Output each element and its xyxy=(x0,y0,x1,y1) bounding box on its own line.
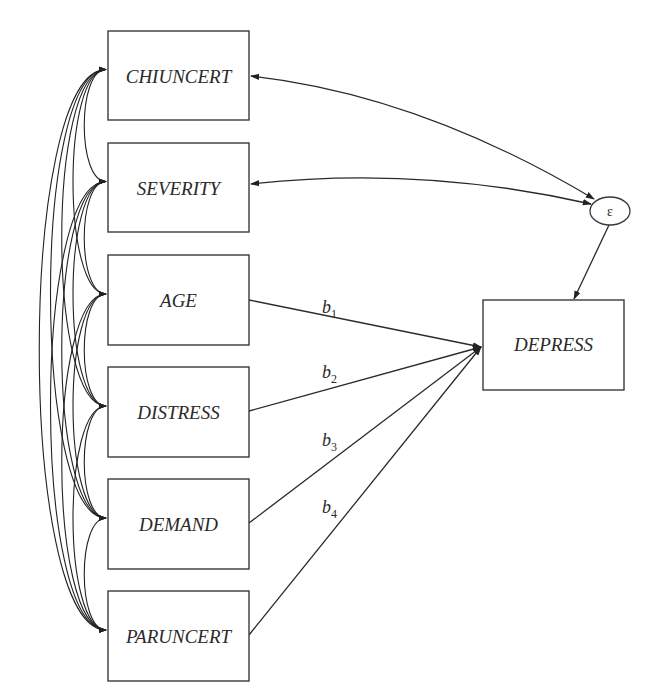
demand-label: DEMAND xyxy=(138,514,218,535)
distress-label: DISTRESS xyxy=(136,402,220,423)
covariance-arc xyxy=(51,182,107,631)
error-cov-chiuncert xyxy=(251,76,594,199)
path-diagram: b1 b2 b3 b4 CHIUNCERTSEVERITYAGEDISTRESS… xyxy=(0,0,648,699)
severity-label: SEVERITY xyxy=(137,178,223,199)
error-cov-severity xyxy=(251,178,591,204)
coef-b2: b2 xyxy=(322,362,337,386)
path-demand-depress xyxy=(249,347,481,523)
error-label: ε xyxy=(607,204,613,219)
paruncert-label: PARUNCERT xyxy=(125,626,233,647)
path-paruncert-depress xyxy=(249,347,481,635)
path-distress-depress xyxy=(249,347,481,411)
chiuncert-label: CHIUNCERT xyxy=(126,66,233,87)
coef-b4: b4 xyxy=(322,497,337,521)
path-age-depress xyxy=(249,300,481,347)
error-to-depress-arrow xyxy=(574,225,609,299)
predictor-covariance-arcs xyxy=(39,70,106,631)
covariance-arc xyxy=(51,70,107,519)
depress-label: DEPRESS xyxy=(513,334,594,355)
coef-b3: b3 xyxy=(322,430,337,454)
coef-b1: b1 xyxy=(322,297,337,321)
age-label: AGE xyxy=(158,290,197,311)
